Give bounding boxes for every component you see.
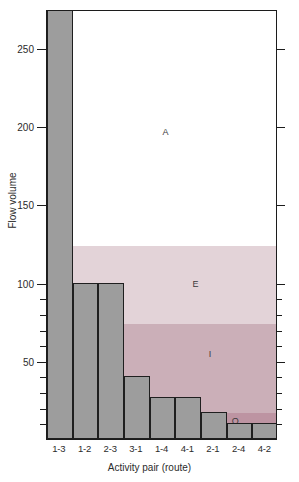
x-axis-tick-label: 2-4 bbox=[226, 443, 252, 459]
band-label-i: I bbox=[209, 350, 212, 359]
chart-figure: Flow volume 50100150200250 AEIOU 1-31-22… bbox=[0, 0, 299, 482]
right-axis-minor-tick bbox=[277, 346, 282, 347]
right-axis-minor-tick bbox=[277, 409, 282, 410]
x-axis-tick-label: 1-2 bbox=[72, 443, 98, 459]
bar bbox=[73, 283, 99, 439]
x-axis-tick-label: 4-1 bbox=[174, 443, 200, 459]
x-axis-tick-label: 4-2 bbox=[251, 443, 277, 459]
y-axis-tick bbox=[37, 49, 46, 50]
right-axis-minor-tick bbox=[277, 315, 282, 316]
y-axis-tick-label: 250 bbox=[17, 44, 34, 55]
x-axis-tick-labels: 1-31-22-33-11-44-12-12-44-2 bbox=[46, 443, 277, 459]
right-axis-tick bbox=[277, 205, 285, 206]
y-axis-tick bbox=[37, 205, 46, 206]
rating-band-a bbox=[47, 11, 276, 246]
bar bbox=[252, 423, 277, 439]
y-axis-tick bbox=[37, 362, 46, 363]
bar bbox=[47, 10, 73, 439]
right-axis-minor-tick bbox=[277, 424, 282, 425]
y-axis-tick bbox=[37, 127, 46, 128]
right-axis-minor-tick bbox=[277, 299, 282, 300]
x-axis-tick-label: 1-4 bbox=[149, 443, 175, 459]
right-axis-tick bbox=[277, 49, 285, 50]
y-axis: 50100150200250 bbox=[0, 0, 46, 482]
x-axis-title: Activity pair (route) bbox=[0, 462, 299, 473]
right-axis-minor-tick bbox=[277, 377, 282, 378]
bar bbox=[150, 397, 176, 439]
bar bbox=[227, 423, 253, 439]
x-axis-tick-label: 3-1 bbox=[123, 443, 149, 459]
right-axis-tick bbox=[277, 127, 285, 128]
right-axis-minor-tick bbox=[277, 393, 282, 394]
band-label-e: E bbox=[193, 280, 199, 289]
bar bbox=[124, 376, 150, 439]
y-axis-tick bbox=[37, 284, 46, 285]
x-axis-tick-label: 2-3 bbox=[97, 443, 123, 459]
right-axis-tick bbox=[277, 284, 285, 285]
y-axis-tick-label: 100 bbox=[17, 278, 34, 289]
right-axis-tick bbox=[277, 362, 285, 363]
y-axis-tick-label: 200 bbox=[17, 122, 34, 133]
y-axis-tick-label: 150 bbox=[17, 200, 34, 211]
plot-area: AEIOU bbox=[46, 10, 277, 440]
right-axis-minor-tick bbox=[277, 331, 282, 332]
x-axis-tick-label: 2-1 bbox=[200, 443, 226, 459]
bar bbox=[201, 412, 227, 439]
x-axis-tick-label: 1-3 bbox=[46, 443, 72, 459]
y-axis-tick-label: 50 bbox=[23, 356, 34, 367]
bar bbox=[175, 397, 201, 439]
bar bbox=[98, 283, 124, 439]
band-label-a: A bbox=[163, 128, 169, 137]
